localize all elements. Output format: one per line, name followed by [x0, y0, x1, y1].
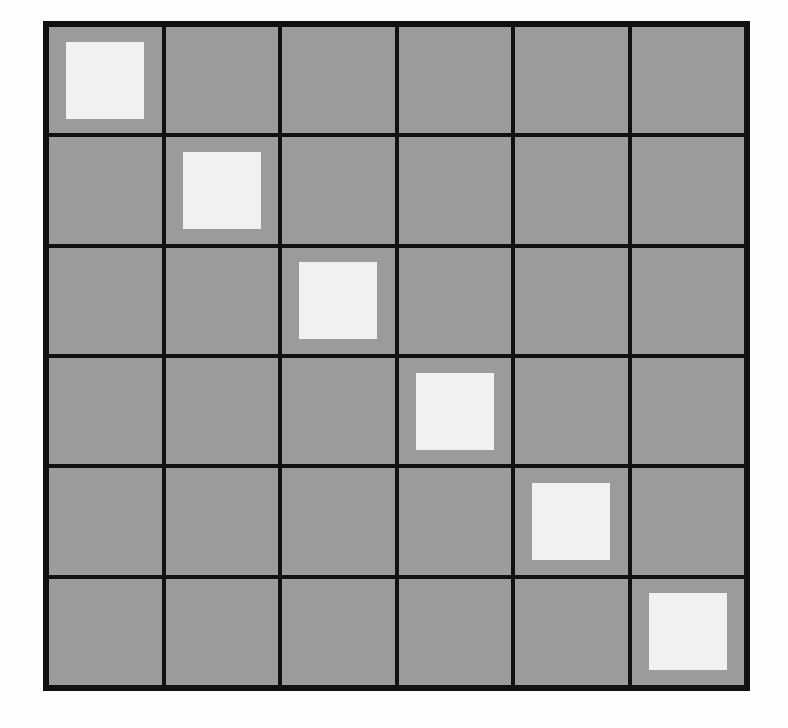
- grid-cell-r5-c3: [399, 579, 512, 685]
- grid-cell-r0-c1: [166, 27, 279, 133]
- grid-cell-r5-c1: [166, 579, 279, 685]
- grid-cell-r0-c3: [399, 27, 512, 133]
- grid-cell-r1-c1: [166, 137, 279, 243]
- grid-cell-r2-c1: [166, 248, 279, 354]
- grid-cell-r4-c4: [515, 468, 628, 574]
- grid-cell-r3-c1: [166, 358, 279, 464]
- grid-cell-r0-c0: [49, 27, 162, 133]
- grid-cell-r5-c0: [49, 579, 162, 685]
- grid-cell-r0-c4: [515, 27, 628, 133]
- grid-cell-r2-c5: [632, 248, 745, 354]
- grid-cell-r3-c0: [49, 358, 162, 464]
- white-square-marker: [299, 262, 377, 339]
- grid-cell-r5-c2: [282, 579, 395, 685]
- grid-cell-r1-c5: [632, 137, 745, 243]
- white-square-marker: [66, 42, 144, 119]
- grid-cell-r4-c1: [166, 468, 279, 574]
- white-square-marker: [532, 483, 610, 560]
- grid-cell-r1-c3: [399, 137, 512, 243]
- grid-cell-r2-c0: [49, 248, 162, 354]
- grid-cell-r1-c4: [515, 137, 628, 243]
- white-square-marker: [649, 593, 727, 670]
- grid-board: [43, 21, 750, 691]
- grid-cell-r2-c4: [515, 248, 628, 354]
- white-square-marker: [183, 152, 261, 229]
- grid-cell-r4-c5: [632, 468, 745, 574]
- grid-cell-r0-c5: [632, 27, 745, 133]
- white-square-marker: [416, 373, 494, 450]
- grid-cell-r3-c2: [282, 358, 395, 464]
- grid-cell-r2-c2: [282, 248, 395, 354]
- grid-cell-r3-c3: [399, 358, 512, 464]
- grid-cell-r1-c2: [282, 137, 395, 243]
- grid-cell-r5-c4: [515, 579, 628, 685]
- grid-cell-r5-c5: [632, 579, 745, 685]
- grid-cell-r2-c3: [399, 248, 512, 354]
- grid-cell-r4-c3: [399, 468, 512, 574]
- grid-cell-r0-c2: [282, 27, 395, 133]
- grid-cell-r3-c5: [632, 358, 745, 464]
- grid-cell-r4-c0: [49, 468, 162, 574]
- grid-cell-r3-c4: [515, 358, 628, 464]
- grid-cell-r1-c0: [49, 137, 162, 243]
- grid-cell-r4-c2: [282, 468, 395, 574]
